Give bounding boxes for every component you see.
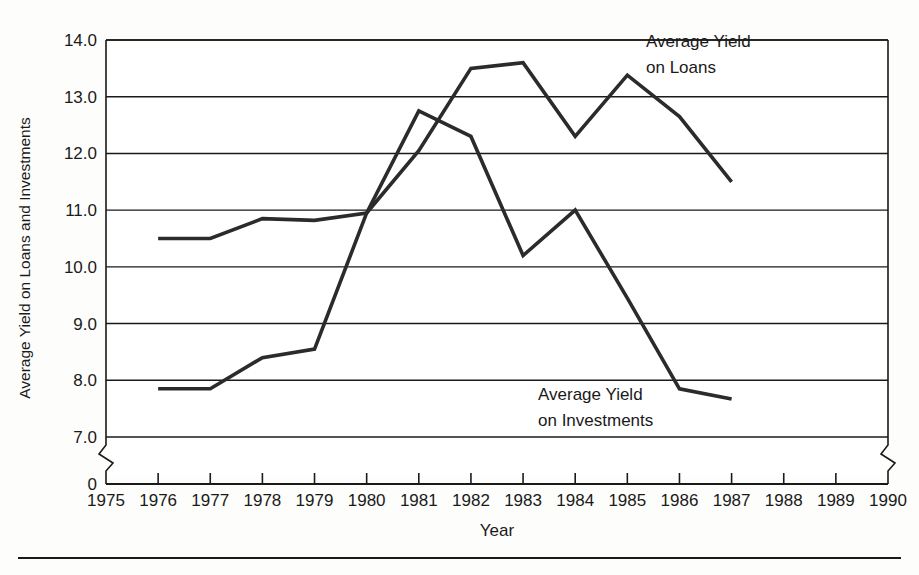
x-tick-label: 1977 — [191, 491, 229, 510]
x-tick-label: 1988 — [765, 491, 803, 510]
figure: 7.08.09.010.011.012.013.014.0 1975197619… — [0, 0, 919, 575]
x-tick-label: 1989 — [817, 491, 855, 510]
x-tick-label: 1976 — [139, 491, 177, 510]
x-tick-label: 1983 — [504, 491, 542, 510]
x-tick-label: 1985 — [608, 491, 646, 510]
y-axis-zero-label: 0 — [88, 475, 97, 494]
y-tick-label: 14.0 — [64, 31, 97, 50]
y-tick-label: 7.0 — [73, 428, 97, 447]
y-tick-labels: 7.08.09.010.011.012.013.014.0 — [64, 31, 97, 447]
y-tick-label: 12.0 — [64, 144, 97, 163]
annotation-investments-line1: Average Yield — [538, 385, 643, 404]
x-tick-label: 1979 — [296, 491, 334, 510]
annotation-loans-line1: Average Yield — [646, 32, 751, 51]
line-chart: 7.08.09.010.011.012.013.014.0 1975197619… — [0, 0, 919, 575]
x-tick-label: 1986 — [661, 491, 699, 510]
y-tick-label: 10.0 — [64, 258, 97, 277]
y-tick-label: 8.0 — [73, 371, 97, 390]
plot-area — [106, 40, 888, 477]
x-tick-label: 1987 — [713, 491, 751, 510]
x-tick-label: 1980 — [348, 491, 386, 510]
y-tick-label: 13.0 — [64, 88, 97, 107]
y-axis-title: Average Yield on Loans and Investments — [16, 117, 33, 399]
x-tick-label: 1978 — [243, 491, 281, 510]
y-tick-label: 11.0 — [65, 201, 97, 220]
annotation-investments-line2: on Investments — [538, 411, 653, 430]
x-tick-label: 1982 — [452, 491, 490, 510]
x-tick-label: 1984 — [556, 491, 594, 510]
x-tick-label: 1981 — [400, 491, 438, 510]
annotation-loans-line2: on Loans — [646, 58, 716, 77]
x-axis-title: Year — [480, 521, 515, 540]
x-tick-labels: 1975197619771978197919801981198219831984… — [87, 491, 907, 510]
x-tick-label: 1990 — [869, 491, 907, 510]
y-tick-label: 9.0 — [73, 315, 97, 334]
